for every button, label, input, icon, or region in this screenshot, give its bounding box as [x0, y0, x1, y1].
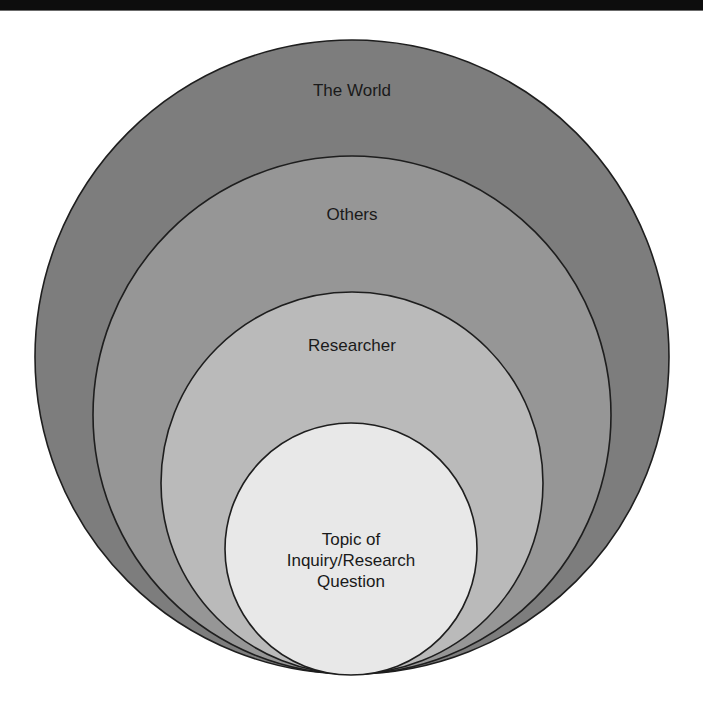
label-topic-of-inquiry: Topic of Inquiry/Research Question	[201, 529, 501, 592]
nested-circles-diagram	[0, 0, 703, 712]
label-researcher: Researcher	[202, 335, 502, 356]
label-others: Others	[202, 204, 502, 225]
label-the-world: The World	[202, 80, 502, 101]
